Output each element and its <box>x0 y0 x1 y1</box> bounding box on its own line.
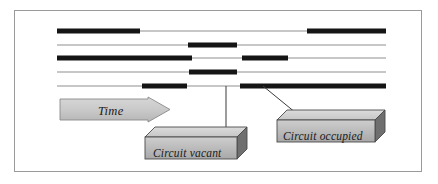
time-arrow-shape <box>60 97 170 122</box>
callout-boxes <box>145 110 385 159</box>
callout-top-face-circuit-occupied <box>277 110 385 120</box>
callout-front-face-circuit-occupied <box>277 120 375 142</box>
callout-front-face-circuit-vacant <box>145 137 237 159</box>
leader-line-circuit-occupied <box>263 86 296 113</box>
timeline-rows <box>57 31 386 86</box>
circuit-occupancy-diagram: Time Circuit vacant Circuit occupied <box>0 0 438 184</box>
callout-top-face-circuit-vacant <box>145 127 247 137</box>
callout-circuit-occupied <box>277 110 385 142</box>
time-arrow <box>60 97 170 122</box>
diagram-canvas <box>0 0 438 184</box>
callout-circuit-vacant <box>145 127 247 159</box>
